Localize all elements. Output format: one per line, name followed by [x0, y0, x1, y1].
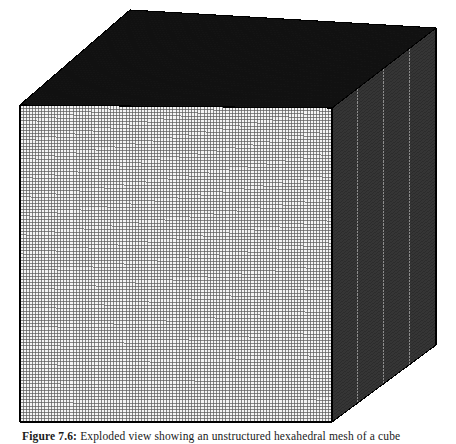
figure-caption: Figure 7.6: Exploded view showing an uns…: [22, 430, 442, 444]
mesh-svg: [0, 0, 456, 430]
front-face-grid: [20, 105, 332, 422]
figure-page: Figure 7.6: Exploded view showing an uns…: [0, 0, 456, 444]
figure-caption-label: Figure 7.6:: [22, 430, 77, 442]
mesh-figure: [0, 0, 456, 430]
figure-caption-text: Exploded view showing an unstructured he…: [80, 430, 400, 442]
cube-front-face: [20, 105, 332, 422]
